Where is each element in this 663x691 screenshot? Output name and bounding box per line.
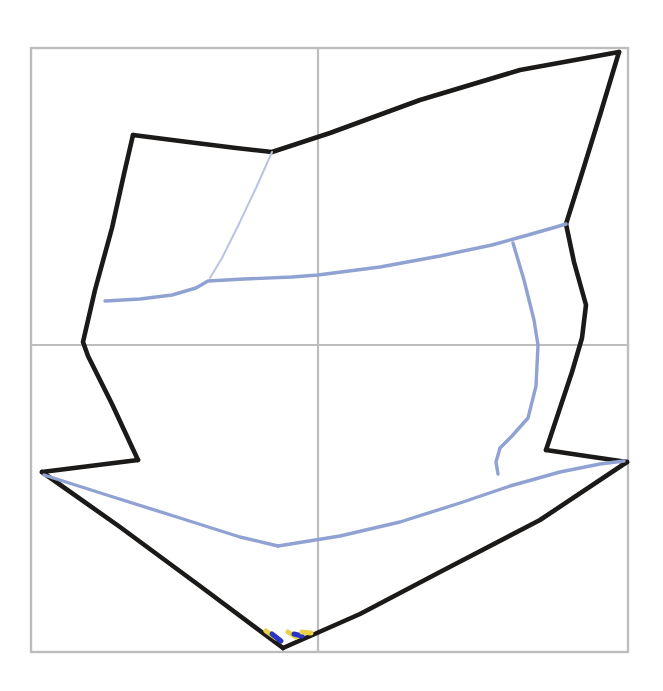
sketch-svg: [0, 0, 663, 691]
sketch-canvas: [0, 0, 663, 691]
mark-blue-mark-right: [294, 634, 302, 636]
mark-yellow-mark-right: [302, 632, 311, 633]
